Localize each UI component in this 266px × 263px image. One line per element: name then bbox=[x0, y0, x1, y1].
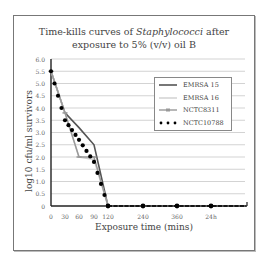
series-dot bbox=[92, 160, 96, 164]
x-tick-label: 0 bbox=[49, 213, 53, 220]
series-dot bbox=[49, 69, 53, 73]
y-tick-label: 3.5 bbox=[35, 117, 45, 124]
legend-label: NCTC8311 bbox=[183, 104, 220, 116]
y-tick-label: 5.0 bbox=[35, 80, 45, 87]
series-dot bbox=[59, 106, 63, 110]
series-dot bbox=[66, 123, 70, 127]
y-tick-label: 4.5 bbox=[35, 92, 45, 99]
y-tick-label: 5.5 bbox=[35, 68, 45, 75]
series-dot bbox=[102, 193, 106, 197]
y-tick-label: 2.0 bbox=[35, 154, 45, 161]
series-dot bbox=[209, 204, 214, 209]
x-tick-label: 60 bbox=[75, 213, 83, 220]
y-tick-label: 1.0 bbox=[35, 178, 45, 185]
series-dot bbox=[84, 149, 88, 153]
y-tick-label: 0.5 bbox=[35, 190, 45, 197]
y-tick-label: 1.5 bbox=[35, 166, 45, 173]
y-tick-label: 2.5 bbox=[35, 141, 45, 148]
legend-label: EMRSA 15 bbox=[183, 79, 219, 91]
x-tick-label: 120 bbox=[102, 213, 114, 220]
series-dot bbox=[141, 204, 146, 209]
series-dot bbox=[95, 171, 99, 175]
plot-area: 00.51.01.52.02.53.03.54.04.55.05.56.0030… bbox=[14, 16, 254, 250]
series-dot bbox=[73, 133, 77, 137]
y-tick-label: 3.0 bbox=[35, 129, 45, 136]
y-tick-label: 6.0 bbox=[35, 56, 45, 63]
legend-label: EMRSA 16 bbox=[183, 92, 219, 104]
series-dot bbox=[175, 204, 180, 209]
legend-item: EMRSA 16 bbox=[159, 92, 231, 104]
series-dot bbox=[56, 94, 60, 98]
legend-item: EMRSA 15 bbox=[159, 79, 231, 91]
series-dot bbox=[77, 138, 81, 142]
x-tick-label: 90 bbox=[90, 213, 98, 220]
series-dot bbox=[81, 143, 85, 147]
x-tick-label: 24h bbox=[205, 213, 217, 220]
chart-frame: Time-kills curves of Staphylococci after… bbox=[13, 15, 255, 251]
series-dot bbox=[70, 128, 74, 132]
y-tick-label: 0 bbox=[41, 203, 45, 210]
series-dot bbox=[88, 154, 92, 158]
x-tick-label: 240 bbox=[137, 213, 149, 220]
legend-label: NCTC10788 bbox=[183, 117, 224, 129]
x-tick-label: 30 bbox=[61, 213, 69, 220]
series-dot bbox=[52, 81, 56, 85]
series-dot bbox=[99, 182, 103, 186]
legend: EMRSA 15EMRSA 16NCTC8311NCTC10788 bbox=[154, 77, 232, 131]
legend-item: NCTC10788 bbox=[159, 117, 231, 129]
legend-item: NCTC8311 bbox=[159, 104, 231, 116]
series-dot bbox=[63, 118, 67, 122]
x-tick-label: 360 bbox=[171, 213, 183, 220]
y-tick-label: 4.0 bbox=[35, 105, 45, 112]
